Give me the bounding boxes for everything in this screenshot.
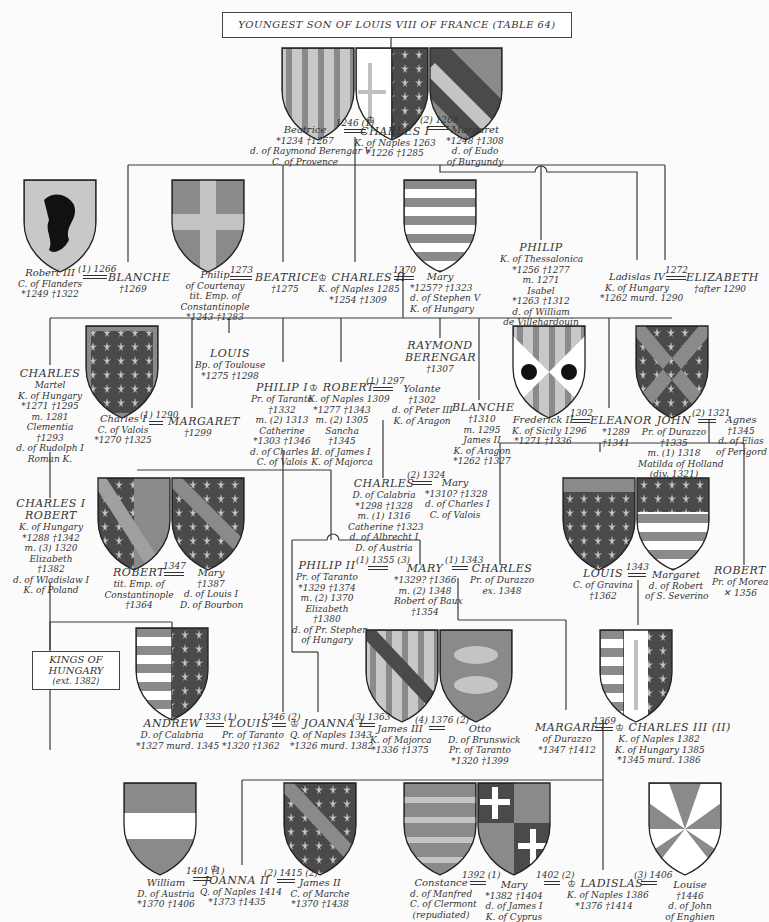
marriage-sign <box>429 726 445 730</box>
person-detail: m. (2) 1348 <box>394 586 456 597</box>
person-dates: *1271 †1336 <box>512 436 574 447</box>
person-name-text: CHARLES III (II) <box>629 721 731 734</box>
person-detail: Pr. of Taranto <box>222 730 276 741</box>
crown-icon: ♔ <box>200 864 274 875</box>
shield-hungary <box>404 180 476 272</box>
person-detail: K. of Naples 1285 <box>318 284 398 295</box>
person-robert-naples: ♔ ROBERT K. of Naples 1309 *1277 †1343 m… <box>308 382 376 468</box>
person-dates: †1354 <box>394 607 456 618</box>
person-name: JOANNA II <box>200 875 274 887</box>
person-dates: *1249 †1322 <box>15 289 85 300</box>
person-charles-iii: ♔ CHARLES III (II) K. of Naples 1382 K. … <box>615 722 703 766</box>
person-name: LOUIS <box>195 348 265 360</box>
person-detail: d. of William <box>500 307 582 318</box>
person-name: MARGARET <box>168 416 228 428</box>
person-detail: Matilda of Holland <box>638 459 710 470</box>
person-dates: *1289 <box>590 427 642 438</box>
person-dates: *1327 murd. 1345 <box>136 741 208 752</box>
person-detail: K. of Hungary 1385 <box>615 745 703 756</box>
person-detail: James II <box>452 435 512 446</box>
kings-box-line1: KINGS OF <box>33 654 119 665</box>
person-dates: *1345 murd. 1386 <box>615 755 703 766</box>
person-detail: of Perigord <box>716 447 766 458</box>
shield-enghien <box>649 783 721 875</box>
person-margaret-ii: MARGARET †1299 <box>168 416 228 439</box>
person-detail: of Burgundy <box>440 157 510 168</box>
person-detail: Constantinople <box>104 590 174 601</box>
person-otto: Otto D. of Brunswick Pr. of Taranto *132… <box>448 724 512 766</box>
person-name: ROBERT <box>712 565 768 577</box>
person-detail: K. of Hungary <box>10 391 90 402</box>
person-eleanor: ELEANOR *1289 †1341 <box>590 415 642 448</box>
person-beatrice-ii: BEATRICE †1275 <box>255 272 315 295</box>
person-detail: D. of Calabria <box>136 730 208 741</box>
person-detail: K. of Aragon <box>452 446 512 457</box>
person-dates: †1362 <box>573 591 633 602</box>
person-detail: Pr. of Durazzo <box>470 575 534 586</box>
person-dates: †after 1290 <box>686 284 754 295</box>
person-detail: C. of Valois <box>92 425 154 436</box>
person-mary-baux: MARY *1329? †1366 m. (2) 1348 Robert of … <box>394 563 456 617</box>
person-ladislas: ♔ LADISLAS K. of Naples 1386 *1376 †1414 <box>567 878 641 911</box>
person-detail: Q. of Naples 1343 <box>290 730 360 741</box>
marriage-sign <box>452 566 468 570</box>
person-detail: Sancha <box>308 426 376 437</box>
person-detail: D. of Brunswick <box>448 735 512 746</box>
person-detail: of Hungary <box>292 635 362 646</box>
person-detail: d. of Louis I <box>180 589 242 600</box>
person-detail: m. (2) 1305 <box>308 415 376 426</box>
person-dates: †1293 <box>10 433 90 444</box>
marriage-sign <box>698 419 716 423</box>
person-detail: Pr. of Durazzo <box>638 427 710 438</box>
person-detail: de Villehardouin <box>500 317 582 328</box>
person-detail: K. of Majorca <box>370 735 430 746</box>
person-margaret-durazzo: MARGARET of Durazzo *1347 †1412 <box>535 722 599 755</box>
person-name: Mary <box>484 880 544 891</box>
person-name: ROBERT <box>8 510 94 522</box>
person-elizabeth: ELIZABETH †after 1290 <box>686 272 754 295</box>
person-name: CHARLES <box>470 563 534 575</box>
marriage-1273: 1273 <box>230 265 252 280</box>
crown-icon: ♔ <box>290 718 300 729</box>
person-detail: m. (1) 1316 <box>348 511 420 522</box>
person-detail: Catherine †1323 <box>348 522 420 533</box>
person-name: Mary <box>425 478 485 489</box>
shield-brunswick <box>440 630 512 722</box>
person-louis-toulouse: LOUIS Bp. of Toulouse *1275 †1298 <box>195 348 265 381</box>
person-name: LOUIS <box>573 568 633 580</box>
person-charles-robert: CHARLES I ROBERT K. of Hungary *1288 †13… <box>8 498 94 596</box>
person-detail: tit. Emp. of <box>180 291 250 302</box>
person-detail: d. of Albrecht I <box>348 532 420 543</box>
person-detail: Robert of Baux <box>394 596 456 607</box>
person-dates: †1380 <box>292 614 362 625</box>
person-blanche: BLANCHE †1269 <box>108 272 158 295</box>
person-philip-thessalonica: PHILIP K. of Thessalonica *1256 †1277 m.… <box>500 242 582 328</box>
person-dates: †1302 <box>392 395 452 406</box>
person-mary-bourbon: Mary †1387 d. of Louis I D. of Bourbon <box>180 568 242 610</box>
person-detail: d. of James I <box>484 901 544 912</box>
person-detail: d. of John <box>662 901 718 912</box>
crown-icon: ♔ <box>318 272 328 283</box>
person-detail: K. of Majorca <box>308 457 376 468</box>
person-detail: of Enghien <box>662 912 718 922</box>
marriage-sign <box>641 881 657 885</box>
person-detail: C. of Flanders <box>15 279 85 290</box>
person-dates: *1288 †1342 <box>8 533 94 544</box>
person-name: James II <box>290 878 350 889</box>
person-detail: m. (1) 1318 <box>638 448 710 459</box>
person-dates: *1329? †1366 <box>394 575 456 586</box>
person-dates: ✕ 1356 <box>712 588 768 599</box>
person-detail: d. of Robert <box>645 581 707 592</box>
person-detail: d. of James I <box>308 447 376 458</box>
person-louise: Louise †1446 d. of John of Enghien <box>662 880 718 922</box>
person-detail: C. of Valois <box>425 510 485 521</box>
shield-gravina <box>563 478 635 570</box>
person-dates: †1382 <box>8 564 94 575</box>
shield-durazzo <box>628 321 716 421</box>
person-detail: K. of Sicily 1296 <box>512 426 574 437</box>
marriage-sign <box>666 276 686 280</box>
person-dates: †1345 <box>716 426 766 437</box>
person-dates: *1234 †1267 <box>250 136 360 147</box>
person-dates: *1347 †1412 <box>535 745 599 756</box>
person-detail: C. of Marche <box>290 889 350 900</box>
